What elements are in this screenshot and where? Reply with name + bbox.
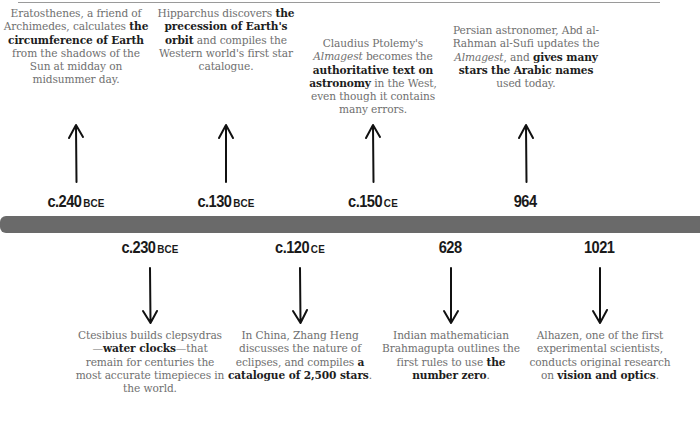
date-era: BCE [157,243,178,255]
date-number: c.130 [197,192,231,211]
event-date: c.150CE [309,193,438,212]
date-number: 1021 [584,238,614,257]
body-text: Hipparchus discovers [158,7,276,19]
event-date: c.230BCE [86,239,215,258]
timeline-bar [0,216,700,233]
event-date: 964 [462,193,591,212]
emphasis-text: vision and optics [557,369,655,381]
body-text: . [487,369,490,381]
event-description: Claudius Ptolemy's Almagest becomes the … [298,37,448,117]
body-text: Eratosthenes, a friend of Archimedes, ca… [4,7,142,32]
event-date: 628 [387,239,516,258]
down-arrow-icon [138,266,162,326]
event-description: Hipparchus discovers the precession of E… [151,7,301,73]
down-arrow-icon [439,266,463,326]
event-date: c.130BCE [162,193,291,212]
body-text: Persian astronomer, Abd al-Rahman al-Suf… [453,24,600,49]
date-era: BCE [233,197,254,209]
up-arrow-icon [361,122,385,182]
body-text: Claudius Ptolemy's [323,37,423,49]
book-title-text: Almagest [454,51,503,63]
up-arrow-icon [64,122,88,182]
event-description: Alhazen, one of the first experimental s… [525,329,675,382]
top-rule-divider [18,2,660,3]
body-text: , and [504,51,533,63]
emphasis-text: water clocks [103,342,176,354]
body-text: . [369,369,372,381]
event-description: Eratosthenes, a friend of Archimedes, ca… [1,7,151,87]
event-description: In China, Zhang Heng discusses the natur… [225,329,375,382]
book-title-text: Almagest [313,50,362,62]
event-description: Indian mathematician Brahmagupta outline… [376,329,526,382]
body-text: In China, Zhang Heng discusses the natur… [236,329,361,368]
up-arrow-icon [214,122,238,182]
date-era: BCE [83,197,104,209]
down-arrow-icon [288,266,312,326]
body-text: . [656,369,659,381]
down-arrow-icon [588,266,612,326]
body-text: becomes the [363,50,433,62]
date-number: 628 [439,238,462,257]
date-era: CE [384,197,398,209]
event-description: Ctesibius builds clepsydras—water clocks… [75,329,225,395]
date-number: c.150 [348,192,382,211]
event-date: 1021 [536,239,665,258]
date-era: CE [311,243,325,255]
date-number: 964 [514,192,537,211]
body-text: from the shadows of the Sun at midday on… [12,47,140,86]
event-date: c.120CE [236,239,365,258]
event-date: c.240BCE [12,193,141,212]
event-description: Persian astronomer, Abd al-Rahman al-Suf… [451,24,601,90]
date-number: c.240 [47,192,81,211]
date-number: c.120 [275,238,309,257]
date-number: c.230 [121,238,155,257]
body-text: used today. [496,77,555,89]
up-arrow-icon [514,122,538,182]
